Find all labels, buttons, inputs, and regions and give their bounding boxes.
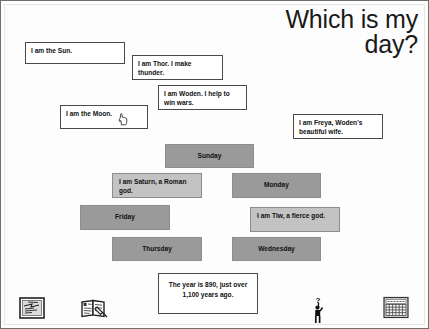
year-box-label: The year is 890, just over 1,100 years a… <box>169 281 247 298</box>
tile-friday-label: Friday <box>115 213 135 222</box>
tile-saturn-label: I am Saturn, a Roman god. <box>119 178 195 195</box>
fact-box-freya[interactable]: I am Freya, Woden's beautiful wife. <box>293 114 383 139</box>
tile-wednesday-label: Wednesday <box>258 245 295 254</box>
tile-thursday[interactable]: Thursday <box>112 237 202 261</box>
slide-canvas: Which is my day? I am the Sun. I am Thor… <box>0 0 429 329</box>
fact-box-thor-label: I am Thor. I make thunder. <box>138 60 192 76</box>
calendar-grid-icon[interactable] <box>383 296 409 320</box>
tile-sunday[interactable]: Sunday <box>165 144 254 168</box>
tile-sunday-label: Sunday <box>198 152 222 161</box>
tile-monday[interactable]: Monday <box>232 173 321 198</box>
fact-box-thor[interactable]: I am Thor. I make thunder. <box>132 55 223 80</box>
tile-friday[interactable]: Friday <box>80 205 170 230</box>
tile-thursday-label: Thursday <box>142 245 172 254</box>
tile-monday-label: Monday <box>264 181 289 190</box>
fact-box-freya-label: I am Freya, Woden's beautiful wife. <box>299 119 362 135</box>
fact-box-sun-label: I am the Sun. <box>31 47 72 54</box>
fact-box-moon-label: I am the Moon. <box>66 110 112 117</box>
page-title: Which is my day? <box>228 7 418 57</box>
tile-wednesday[interactable]: Wednesday <box>232 237 321 261</box>
fact-box-woden[interactable]: I am Woden. I help to win wars. <box>158 85 247 110</box>
person-question-icon[interactable]: ? <box>310 296 328 320</box>
picture-icon[interactable] <box>19 296 45 320</box>
tile-tiw[interactable]: I am Tiw, a fierce god. <box>250 207 340 232</box>
pointing-hand-cursor <box>118 112 129 125</box>
year-box[interactable]: The year is 890, just over 1,100 years a… <box>158 273 258 314</box>
fact-box-moon[interactable]: I am the Moon. <box>60 105 148 129</box>
fact-box-sun[interactable]: I am the Sun. <box>25 42 125 64</box>
fact-box-woden-label: I am Woden. I help to win wars. <box>164 90 230 106</box>
tile-tiw-label: I am Tiw, a fierce god. <box>257 212 333 221</box>
book-pencil-icon[interactable] <box>80 296 106 320</box>
tile-saturn[interactable]: I am Saturn, a Roman god. <box>112 173 202 198</box>
